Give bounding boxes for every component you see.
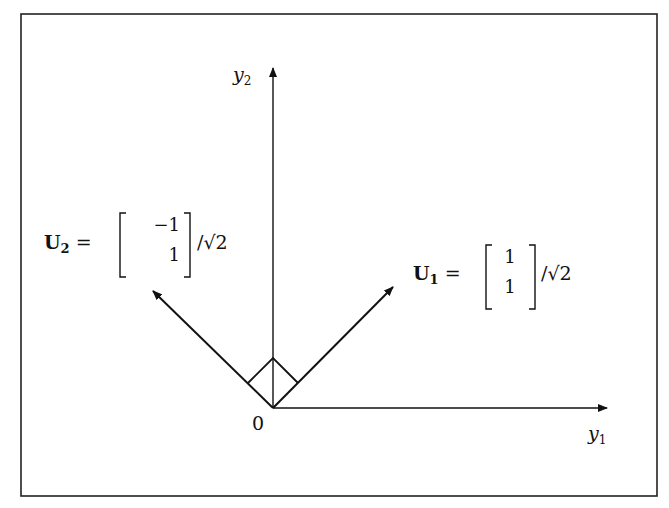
u1-entry-2: 1 (496, 276, 524, 297)
u1-name: U1 = (413, 262, 461, 287)
u2-entry-2: 1 (138, 244, 180, 265)
u1-vector-arrow (273, 287, 393, 408)
u2-scale: /√2 (197, 231, 228, 253)
u1-entry-1: 1 (496, 246, 524, 267)
diagram-canvas (0, 0, 669, 508)
frame-border (21, 14, 657, 496)
y2-axis-label: y2 (233, 63, 251, 88)
u2-entry-1: −1 (138, 214, 180, 235)
y1-axis-label: y1 (588, 422, 606, 447)
u2-vector-arrow (153, 291, 273, 408)
u2-name: U2 = (44, 231, 92, 256)
u1-scale: /√2 (541, 262, 572, 284)
origin-label: 0 (252, 412, 264, 434)
